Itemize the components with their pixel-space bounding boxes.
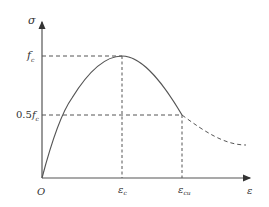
fc-label: fc [26, 49, 35, 63]
stress-strain-diagram: σ ε O fc 0.5fc εc εcu [0, 0, 269, 207]
stress-strain-curve [42, 56, 182, 178]
eps-cu-label: εcu [178, 184, 191, 196]
eps-c-label: εc [118, 184, 127, 196]
x-axis-label: ε [247, 185, 252, 196]
half-fc-label: 0.5fc [16, 109, 40, 122]
origin-label: O [37, 186, 45, 197]
softening-tail-curve [182, 115, 246, 145]
y-axis-label: σ [28, 14, 36, 27]
diagram-svg: σ ε O fc 0.5fc εc εcu [0, 0, 269, 207]
